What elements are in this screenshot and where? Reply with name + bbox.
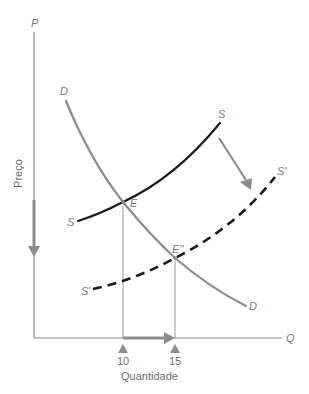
x-axis-title: Quantidade bbox=[121, 371, 178, 382]
price-down-arrow-icon bbox=[28, 200, 40, 257]
supply-label-right: S bbox=[218, 109, 225, 120]
equilibrium-label-e: E bbox=[130, 198, 137, 209]
supply-prime-label-right: S' bbox=[277, 166, 286, 177]
demand-label-bottom: D bbox=[249, 301, 257, 312]
quantity-right-arrow-icon bbox=[123, 332, 175, 344]
x-axis-letter: Q bbox=[286, 333, 295, 344]
demand-label-top: D bbox=[60, 86, 68, 97]
equilibrium-label-e2: E'' bbox=[172, 244, 184, 255]
tick-10-marker-icon bbox=[118, 344, 128, 353]
supply-prime-label-left: S' bbox=[81, 286, 90, 297]
supply-label-left: S bbox=[67, 217, 74, 228]
supply-demand-chart bbox=[0, 0, 309, 394]
tick-15-marker-icon bbox=[170, 344, 180, 353]
supply-shift-arrow-icon bbox=[219, 138, 252, 190]
y-axis-title: Preço bbox=[13, 159, 24, 188]
x-tick-15: 15 bbox=[169, 356, 181, 367]
y-axis-letter: P bbox=[31, 18, 38, 29]
point-e2 bbox=[173, 256, 177, 260]
point-e bbox=[121, 200, 125, 204]
x-tick-10: 10 bbox=[117, 356, 129, 367]
demand-curve bbox=[66, 101, 246, 306]
supply-curve-s-prime bbox=[93, 177, 275, 289]
supply-curve-s bbox=[78, 123, 220, 221]
